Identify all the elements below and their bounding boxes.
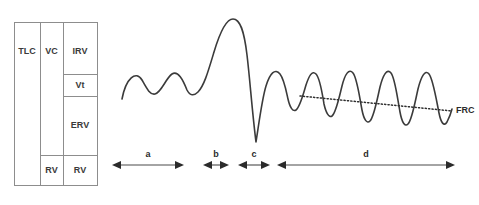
segment-d-arrowhead-right <box>446 161 455 169</box>
table-cell-irv: IRV <box>73 46 88 56</box>
segment-c-arrowhead-right <box>261 161 270 169</box>
frc-label: FRC <box>456 105 475 115</box>
segment-arrow-a: a <box>112 149 184 169</box>
table-cell-vc: VC <box>45 46 58 56</box>
table-cell-rv: RV <box>74 165 86 175</box>
table-cell-rv-vc: RV <box>45 165 57 175</box>
segment-a-arrowhead-left <box>112 161 121 169</box>
segment-d-arrowhead-left <box>277 161 286 169</box>
lung-volumes-figure: TLC VC RV IRV Vt ERV RV FRC a b <box>0 0 479 205</box>
segment-arrow-b: b <box>203 149 229 169</box>
segment-arrow-d: d <box>277 149 455 169</box>
spirogram-trace <box>122 19 452 142</box>
table-cell-tlc: TLC <box>18 46 36 56</box>
segment-a-label: a <box>145 149 151 159</box>
segment-arrow-c: c <box>238 149 270 169</box>
table-cell-vt: Vt <box>76 80 85 90</box>
segment-b-label: b <box>213 149 219 159</box>
segment-a-arrowhead-right <box>175 161 184 169</box>
segment-c-arrowhead-left <box>238 161 247 169</box>
segment-d-label: d <box>363 149 369 159</box>
segment-b-arrowhead-left <box>203 161 212 169</box>
volume-table: TLC VC RV IRV Vt ERV RV <box>14 22 97 185</box>
table-cell-erv: ERV <box>71 120 89 130</box>
segment-b-arrowhead-right <box>220 161 229 169</box>
spirogram-diagram: TLC VC RV IRV Vt ERV RV FRC a b <box>0 0 479 205</box>
segment-c-label: c <box>251 149 256 159</box>
